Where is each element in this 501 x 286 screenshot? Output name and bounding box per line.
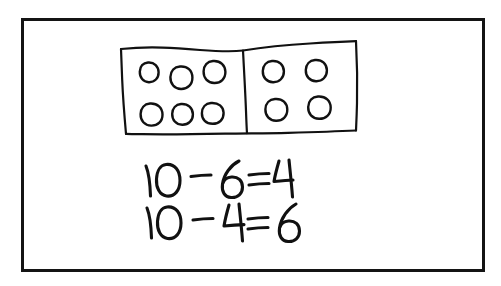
total-count: 10 <box>0 0 1 1</box>
left-part-count: 6 <box>0 0 1 1</box>
whiteboard-canvas: 10 - 6 = 4 10 - 4 = 6 6 4 10 <box>0 0 501 286</box>
board-border <box>21 18 485 272</box>
right-part-count: 4 <box>0 0 1 1</box>
equation-line-2-text: 10 - 4 = 6 <box>146 203 150 204</box>
equation-line-1-text: 10 - 6 = 4 <box>145 160 149 161</box>
